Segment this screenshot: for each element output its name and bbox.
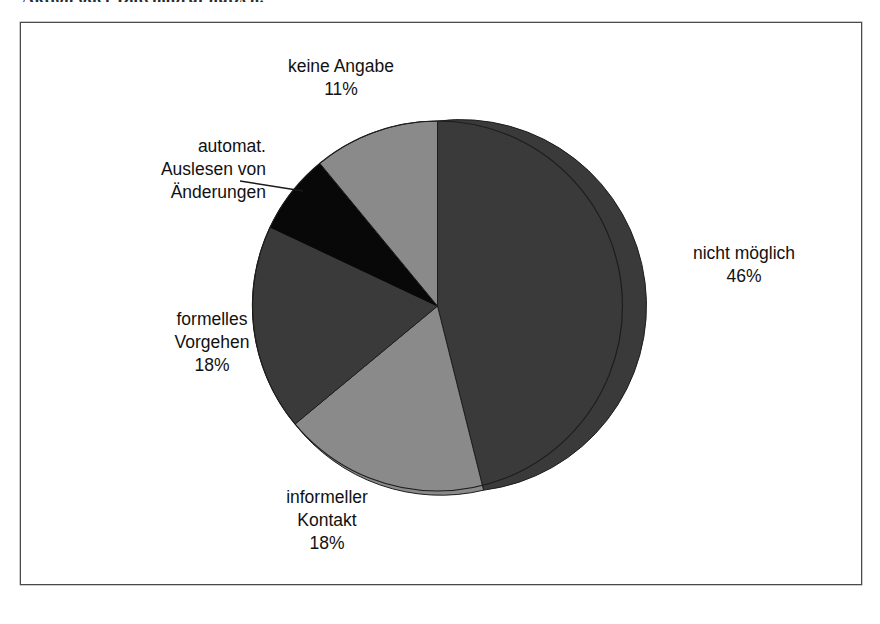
pie-label-informeller-kontakt-line1: informeller xyxy=(232,486,422,509)
pie-label-formelles-vorgehen-value: 18% xyxy=(122,354,302,377)
pie-label-automat-auslesen-line3: Änderungen xyxy=(78,181,266,204)
pie-label-keine-angabe: keine Angabe 11% xyxy=(246,55,436,101)
pie-label-keine-angabe-line1: keine Angabe xyxy=(246,55,436,78)
pie-label-nicht-moeglich: nicht möglich 46% xyxy=(644,242,844,288)
pie-label-automat-auslesen-line2: Auslesen von xyxy=(78,158,266,181)
pie-label-nicht-moeglich-line1: nicht möglich xyxy=(644,242,844,265)
pie-label-formelles-vorgehen: formelles Vorgehen 18% xyxy=(122,308,302,377)
pie-label-automat-auslesen-line1: automat. xyxy=(78,135,266,158)
pie-label-informeller-kontakt-line2: Kontakt xyxy=(232,509,422,532)
pie-label-informeller-kontakt-value: 18% xyxy=(232,532,422,555)
pie-label-nicht-moeglich-value: 46% xyxy=(644,265,844,288)
pie-label-keine-angabe-value: 11% xyxy=(246,78,436,101)
pie-label-formelles-vorgehen-line1: formelles xyxy=(122,308,302,331)
pie-label-formelles-vorgehen-line2: Vorgehen xyxy=(122,331,302,354)
pie-label-automat-auslesen: automat. Auslesen von Änderungen xyxy=(78,135,266,204)
pie-label-informeller-kontakt: informeller Kontakt 18% xyxy=(232,486,422,555)
